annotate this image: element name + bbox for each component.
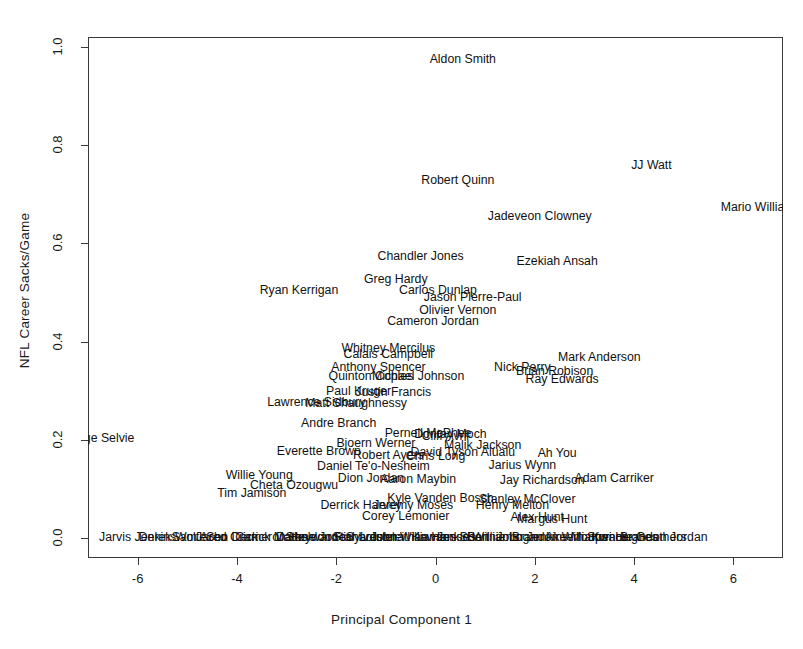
x-axis-tick-label: -6 [132,571,144,586]
x-axis-tick [535,558,536,565]
y-axis-tick [81,243,88,244]
y-axis-tick [81,538,88,539]
x-axis-tick [336,558,337,565]
x-axis-tick-label: -2 [330,571,342,586]
data-point-label: Ryan Kerrigan [260,284,339,296]
y-axis-tick-label: 0.0 [50,523,65,553]
x-axis-tick [634,558,635,565]
x-axis-tick-label: 2 [531,571,538,586]
x-axis-tick [436,558,437,565]
data-point-label: Margus Hunt [517,513,587,525]
x-axis-label: Principal Component 1 [0,612,803,627]
data-point-label: Aldon Smith [430,53,496,65]
y-axis-tick-label: 1.0 [50,31,65,61]
data-point-label: JJ Watt [631,159,672,171]
data-point-label: Chandler Jones [378,250,464,262]
data-point-label: George Selvie [88,431,134,443]
data-point-label: Tim Jamison [217,486,286,498]
data-point-label: Brandon Jordan [620,531,708,543]
scatter-plot-figure: Aldon SmithJJ WattRobert QuinnMario Will… [0,0,803,649]
x-axis-tick [733,558,734,565]
y-axis-tick-label: 0.8 [50,130,65,160]
data-point-label: Jarius Wynn [489,458,557,470]
y-axis-tick [81,342,88,343]
data-point-label: Adam Carriker [575,472,654,484]
data-point-label: Daniel Te'o-Nesheim [317,459,430,471]
y-axis-tick-label: 0.2 [50,425,65,455]
x-axis-tick-label: 4 [630,571,637,586]
data-point-label: Cameron Jordan [387,314,479,326]
data-point-label: Everette Brown [277,445,361,457]
y-axis-tick [81,145,88,146]
x-axis-tick [237,558,238,565]
data-point-label: Jadeveon Clowney [488,210,592,222]
x-axis-tick-label: -4 [231,571,243,586]
y-axis-tick [81,47,88,48]
data-point-label: Aaron Maybin [380,473,456,485]
data-point-label: Jason Pierre-Paul [424,290,522,302]
y-axis-tick-label: 0.4 [50,326,65,356]
data-point-label: Ezekiah Ansah [516,254,597,266]
data-point-label: Mark Anderson [558,351,641,363]
y-axis-label: NFL Career Sacks/Game [17,171,32,411]
data-point-label: Calais Campbell [344,348,434,360]
data-point-label: Michael Johnson [372,370,464,382]
data-point-label: Corey Lemonier [362,510,449,522]
x-axis-tick-label: 0 [432,571,439,586]
data-point-label: Robert Quinn [421,173,494,185]
y-axis-tick-label: 0.6 [50,228,65,258]
x-axis-tick [138,558,139,565]
y-axis-tick [81,440,88,441]
data-point-label: Andre Branch [301,417,376,429]
x-axis-tick-label: 6 [730,571,737,586]
data-point-label: Mario Williams [721,200,783,212]
point-label-layer: Aldon SmithJJ WattRobert QuinnMario Will… [88,37,783,558]
data-point-label: Matt Shaughnessy [305,397,407,409]
data-point-label: Ray Edwards [526,372,599,384]
data-point-label: Jay Richardson [500,474,585,486]
